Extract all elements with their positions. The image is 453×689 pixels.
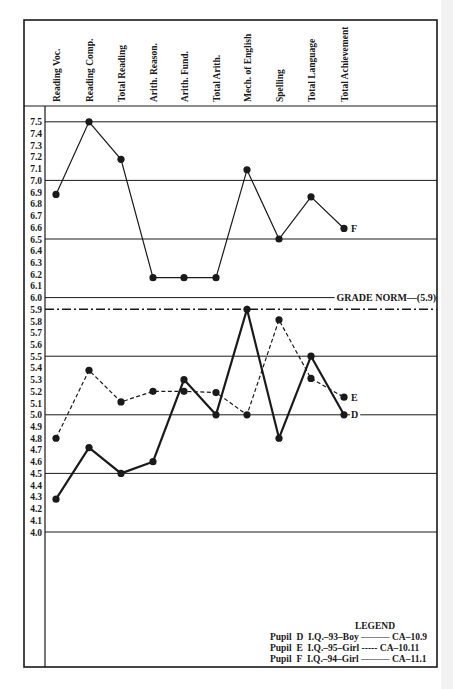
y-tick-label: 6.1 [30,281,42,291]
data-point [243,166,250,173]
data-point [149,388,156,395]
column-label: Total Achievement [340,26,350,102]
legend: LEGEND Pupil D I.Q.–93–Boy ——— CA–10.9 P… [270,621,440,665]
legend-line-dashed: ----- [362,643,378,653]
y-tick-label: 7.4 [30,129,42,139]
series-end-label: D [351,409,358,420]
y-tick-label: 5.9 [30,305,42,315]
legend-pupil: Pupil [270,654,292,664]
column-label: Spelling [275,69,285,102]
series-end-label: F [351,223,357,234]
data-point [180,376,187,383]
legend-entry-f: Pupil F I.Q.–94–Girl ——— CA–11.1 [270,654,440,665]
y-tick-label: 5.2 [30,387,42,397]
y-tick-label: 7.0 [30,176,42,186]
series-line-d [56,309,344,499]
legend-line-solid: ——— [361,632,390,642]
y-tick-label: 6.3 [30,258,42,268]
legend-entry-e: Pupil E I.Q.–95–Girl ----- CA–10.11 [270,643,440,654]
series-line-f [56,122,344,278]
legend-line-solid: ——— [361,654,390,664]
series-line-e [56,320,344,438]
y-tick-label: 6.0 [30,293,42,303]
outer-border [24,20,437,667]
y-tick-label: 4.4 [30,481,42,491]
y-tick-label: 6.6 [30,223,42,233]
legend-id: E [296,643,302,653]
y-tick-label: 4.9 [30,422,42,432]
y-tick-label: 7.3 [30,141,42,151]
legend-info: I.Q.–95–Girl [308,643,360,653]
data-point [307,375,314,382]
y-tick-label: 7.2 [30,152,42,162]
column-label: Total Arith. [212,55,222,102]
y-tick-label: 5.3 [30,375,42,385]
y-tick-label: 7.5 [30,117,42,127]
y-tick-label: 5.4 [30,363,42,373]
legend-ca: CA–10.9 [392,632,427,642]
legend-entry-d: Pupil D I.Q.–93–Boy ——— CA–10.9 [270,632,440,643]
y-tick-label: 6.8 [30,199,42,209]
column-label: Arith. Fund. [180,51,190,102]
series-end-label: E [351,392,358,403]
data-point [180,274,187,281]
legend-title: LEGEND [310,621,440,632]
legend-id: F [296,654,302,664]
column-label: Total Reading [117,45,127,102]
y-tick-label: 7.1 [30,164,42,174]
data-point [117,470,124,477]
y-tick-label: 4.8 [30,434,42,444]
data-point [117,398,124,405]
data-point [85,444,92,451]
grade-norm-line: GRADE NORM—(5.9) [45,292,437,309]
y-axis-ticks: 7.57.47.37.27.17.06.96.86.76.66.56.46.36… [30,117,42,537]
data-point [212,274,219,281]
data-point [212,389,219,396]
y-tick-label: 5.1 [30,399,42,409]
data-point [307,353,314,360]
y-tick-label: 5.8 [30,317,42,327]
y-tick-label: 6.5 [30,235,42,245]
data-point [275,435,282,442]
series-lines: DEF [52,118,360,503]
y-tick-label: 6.2 [30,270,42,280]
data-point [149,274,156,281]
data-point [340,411,347,418]
y-tick-label: 6.4 [30,246,42,256]
y-tick-label: 4.7 [30,445,42,455]
y-tick-label: 4.1 [30,516,42,526]
legend-id: D [296,632,303,642]
legend-pupil: Pupil [270,643,292,653]
data-point [180,388,187,395]
y-tick-label: 4.3 [30,492,42,502]
legend-ca: CA–11.1 [392,654,427,664]
data-point [275,316,282,323]
data-point [307,193,314,200]
legend-ca: CA–10.11 [380,643,419,653]
y-tick-label: 5.5 [30,352,42,362]
legend-info: I.Q.–93–Boy [308,632,359,642]
data-point [275,235,282,242]
column-headers: Reading Voc.Reading Comp.Total ReadingAr… [52,26,350,102]
legend-info: I.Q.–94–Girl [307,654,359,664]
y-tick-label: 4.6 [30,457,42,467]
y-tick-label: 5.6 [30,340,42,350]
column-label: Mech. of English [243,33,253,102]
data-point [117,156,124,163]
data-point [340,394,347,401]
y-tick-label: 4.2 [30,504,42,514]
data-point [85,367,92,374]
column-label: Reading Voc. [52,49,62,102]
y-tick-label: 6.7 [30,211,42,221]
data-point [149,458,156,465]
y-tick-label: 4.0 [30,528,42,538]
y-tick-label: 6.9 [30,188,42,198]
data-point [52,191,59,198]
grade-profile-chart: 7.57.47.37.27.17.06.96.86.76.66.56.46.36… [0,0,453,689]
column-label: Reading Comp. [85,39,95,102]
y-tick-label: 5.7 [30,328,42,338]
data-point [85,118,92,125]
data-point [52,496,59,503]
chart-frame [24,20,437,667]
column-label: Total Language [307,39,317,102]
